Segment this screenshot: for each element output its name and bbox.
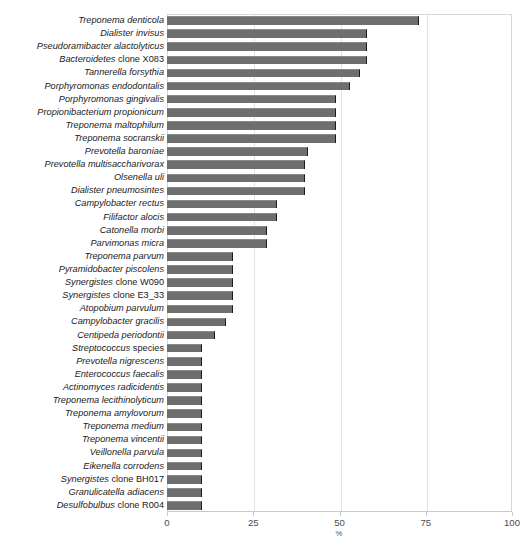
bar [167,370,202,379]
bar-row: Parvimonas micra [0,237,527,250]
category-label: Prevotella baroniae [85,145,164,158]
bar-track [167,486,512,499]
bar-row: Synergistes clone W090 [0,276,527,289]
category-label: Prevotella multisaccharivorax [45,158,164,171]
bar-track [167,145,512,158]
bar-track [167,329,512,342]
category-label: Treponema lecithinolyticum [53,394,164,407]
bar [167,213,277,222]
bar [167,318,226,327]
bar-row: Treponema denticola [0,14,527,27]
category-label: Synergistes clone E3_33 [62,289,164,302]
x-tick-mark [426,512,427,516]
x-tick-label: 100 [504,517,520,528]
bar-track [167,355,512,368]
category-label: Treponema medium [82,420,164,433]
bar [167,475,202,484]
bar-track [167,302,512,315]
bar [167,291,233,300]
bar-row: Treponema parvum [0,250,527,263]
bar-track [167,66,512,79]
bar [167,501,202,510]
bar-track [167,446,512,459]
bar [167,396,202,405]
category-label: Campylobacter rectus [75,197,164,210]
category-label: Streptococcus species [72,342,164,355]
bar [167,449,202,458]
category-label: Dialister pneumosintes [71,184,164,197]
bar [167,82,350,91]
bar-row: Synergistes clone E3_33 [0,289,527,302]
category-label: Treponema amylovorum [65,407,164,420]
category-label: Atopobium parvulum [80,302,164,315]
bar-track [167,342,512,355]
bar [167,56,367,65]
bar-row: Campylobacter gracilis [0,315,527,328]
bar-track [167,460,512,473]
category-label: Parvimonas micra [90,237,164,250]
bar-row: Veillonella parvula [0,446,527,459]
x-tick-mark [512,512,513,516]
bar-row: Dialister invisus [0,27,527,40]
bar-row: Prevotella multisaccharivorax [0,158,527,171]
bar [167,16,419,25]
bar [167,265,233,274]
bar-row: Treponema vincentii [0,433,527,446]
bar-row: Eikenella corrodens [0,460,527,473]
category-label: Synergistes clone BH017 [61,473,164,486]
bar-row: Centipeda periodontii [0,329,527,342]
bar-track [167,119,512,132]
bar-row: Atopobium parvulum [0,302,527,315]
category-label: Enterococcus faecalis [75,368,164,381]
bar-row: Tannerella forsythia [0,66,527,79]
bar-row: Streptococcus species [0,342,527,355]
category-label: Centipeda periodontii [77,329,164,342]
bar [167,134,336,143]
bar [167,409,202,418]
category-label: Propionibacterium propionicum [37,106,164,119]
bar-row: Pseudoramibacter alactolyticus [0,40,527,53]
bar-row: Synergistes clone BH017 [0,473,527,486]
bar-row: Campylobacter rectus [0,197,527,210]
bar-row: Treponema lecithinolyticum [0,394,527,407]
bar [167,160,305,169]
category-label: Treponema socranskii [74,132,164,145]
bar-track [167,80,512,93]
x-axis-title: % [336,529,343,538]
bar [167,226,267,235]
bar-track [167,276,512,289]
category-label: Porphyromonas gingivalis [59,93,164,106]
bar [167,95,336,104]
bar-row: Treponema medium [0,420,527,433]
bar-row: Prevotella baroniae [0,145,527,158]
x-tick-label: 0 [164,517,169,528]
bar-row: Prevotella nigrescens [0,355,527,368]
bar-row: Pyramidobacter piscolens [0,263,527,276]
bar-track [167,171,512,184]
x-tick-label: 50 [334,517,345,528]
bar-track [167,381,512,394]
bar-row: Treponema maltophilum [0,119,527,132]
bar [167,278,233,287]
category-label: Treponema maltophilum [66,119,164,132]
bar [167,200,277,209]
category-label: Eikenella corrodens [83,460,164,473]
category-label: Catonella morbi [100,224,164,237]
bar-track [167,14,512,27]
category-label: Filifactor alocis [103,211,164,224]
bar-row: Catonella morbi [0,224,527,237]
bar [167,69,360,78]
bar [167,147,308,156]
category-label: Treponema denticola [78,14,164,27]
bar [167,462,202,471]
x-tick-mark [340,512,341,516]
bar-track [167,250,512,263]
bar [167,187,305,196]
category-label: Actinomyces radicidentis [63,381,164,394]
bar [167,29,367,38]
x-tick-mark [253,512,254,516]
bar [167,357,202,366]
bar-track [167,184,512,197]
bar [167,42,367,51]
category-label: Pseudoramibacter alactolyticus [37,40,164,53]
